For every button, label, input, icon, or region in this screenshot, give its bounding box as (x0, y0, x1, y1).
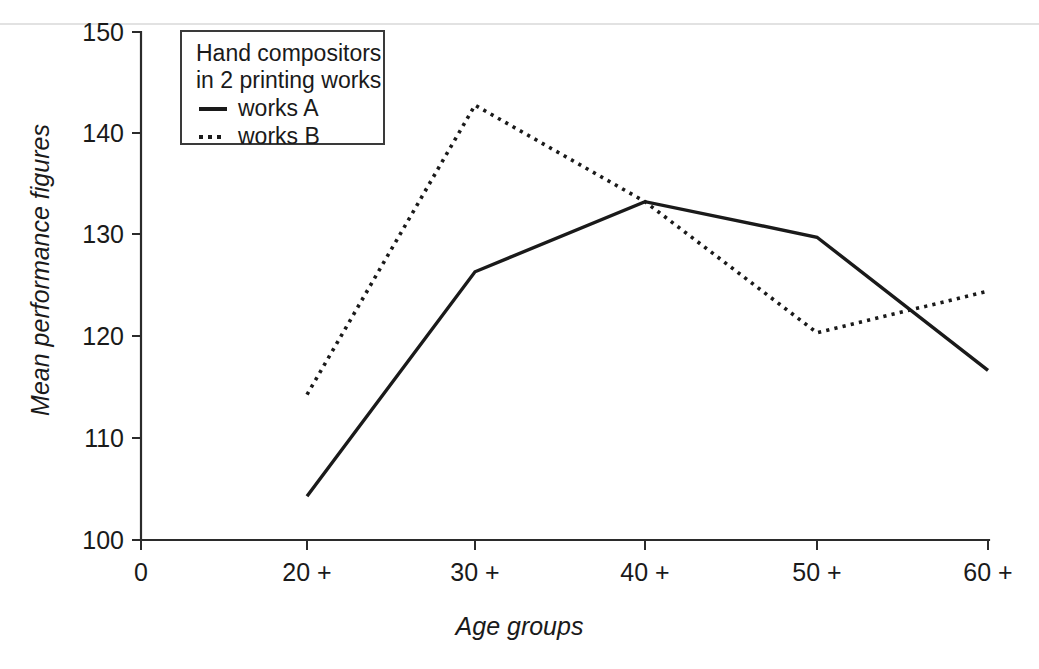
chart-figure: 150 140 130 120 110 100 0 20 + 30 + 40 +… (0, 0, 1039, 669)
legend-label-works-a: works A (238, 97, 319, 120)
y-axis-tick-label-150: 150 (58, 18, 124, 47)
x-axis-tick-label-20: 20 + (282, 558, 331, 587)
y-axis-title: Mean performance figures (26, 10, 55, 530)
series-line-works-a (307, 202, 988, 497)
y-axis-tick-label-130: 130 (58, 220, 124, 249)
x-axis-tick-label-60: 60 + (963, 558, 1012, 587)
series-line-works-b (307, 105, 988, 395)
dotted-line-swatch-icon (198, 129, 228, 143)
plot-area (0, 0, 1039, 669)
legend-entry-works-a: works A (198, 94, 383, 122)
y-axis-tick-label-140: 140 (58, 119, 124, 148)
x-axis-tick-label-40: 40 + (620, 558, 669, 587)
y-axis-tick-label-100: 100 (58, 526, 124, 555)
legend-entry-works-b: works B (198, 122, 383, 150)
legend-title-line-2: in 2 printing works (196, 67, 383, 94)
x-axis-tick-label-50: 50 + (792, 558, 841, 587)
x-axis-tick-label-30: 30 + (450, 558, 499, 587)
solid-line-swatch-icon (198, 101, 228, 115)
y-axis-tick-label-110: 110 (58, 424, 124, 453)
legend: Hand compositors in 2 printing works wor… (180, 30, 385, 145)
legend-title-line-1: Hand compositors (196, 40, 383, 67)
legend-label-works-b: works B (238, 125, 320, 148)
y-axis-tick-label-120: 120 (58, 322, 124, 351)
x-axis-title: Age groups (0, 612, 1039, 641)
x-axis-tick-label-0: 0 (134, 558, 148, 587)
